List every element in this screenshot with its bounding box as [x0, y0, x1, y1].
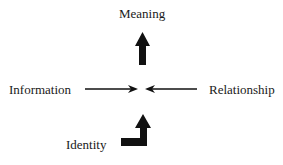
bent-up-arrow-icon: [121, 114, 151, 146]
left-pointing-arrow-icon: [145, 85, 197, 93]
diagram-arrows: [0, 0, 283, 165]
up-arrow-icon: [135, 32, 150, 65]
right-pointing-arrow-icon: [85, 85, 138, 93]
